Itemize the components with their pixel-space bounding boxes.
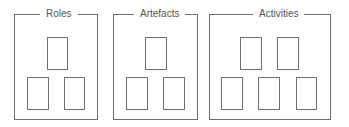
artefacts-box-top bbox=[145, 37, 167, 70]
activities-box-bottom-center bbox=[258, 77, 280, 110]
roles-box-top bbox=[47, 37, 68, 70]
artefacts-box-bottom-left bbox=[126, 77, 148, 110]
roles-box-bottom-left bbox=[27, 77, 49, 110]
roles-box-bottom-right bbox=[64, 77, 85, 110]
activities-box-top-left bbox=[240, 37, 262, 70]
artefacts-box-bottom-right bbox=[163, 77, 185, 110]
group-label-activities: Activities bbox=[253, 8, 304, 20]
activities-box-bottom-left bbox=[221, 77, 243, 110]
group-label-artefacts: Artefacts bbox=[134, 8, 185, 20]
group-label-roles: Roles bbox=[40, 8, 78, 20]
activities-box-bottom-right bbox=[296, 77, 317, 110]
activities-box-top-right bbox=[277, 37, 299, 70]
